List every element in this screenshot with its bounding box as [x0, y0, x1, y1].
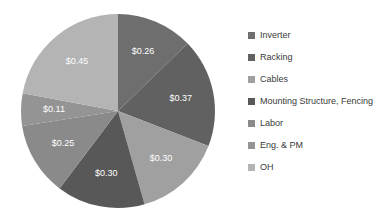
legend-item-label: Inverter: [260, 24, 291, 46]
legend-item-oh[interactable]: OH: [248, 156, 383, 178]
legend-item-label: OH: [260, 156, 274, 178]
legend-swatch-icon: [248, 32, 255, 39]
legend-item-inverter[interactable]: Inverter: [248, 24, 383, 46]
pie-slice-value-label: $0.30: [150, 153, 173, 163]
pie-plot-area: $0.26$0.37$0.30$0.30$0.25$0.11$0.45: [0, 0, 232, 220]
legend-swatch-icon: [248, 120, 255, 127]
pie-svg: $0.26$0.37$0.30$0.30$0.25$0.11$0.45: [0, 0, 232, 220]
legend-item-label: Eng. & PM: [260, 134, 303, 156]
legend-swatch-icon: [248, 98, 255, 105]
legend-item-racking[interactable]: Racking: [248, 46, 383, 68]
legend-swatch-icon: [248, 76, 255, 83]
legend-item-label: Cables: [260, 68, 288, 90]
pie-slice-value-label: $0.45: [66, 56, 89, 66]
pie-slice-value-label: $0.26: [132, 46, 155, 56]
pie-chart-figure: $0.26$0.37$0.30$0.30$0.25$0.11$0.45 Inve…: [0, 0, 383, 220]
legend-item-label: Labor: [260, 112, 283, 134]
legend-item-label: Racking: [260, 46, 293, 68]
legend-swatch-icon: [248, 54, 255, 61]
pie-slice-value-label: $0.30: [95, 168, 118, 178]
chart-legend: Inverter Racking Cables Mounting Structu…: [248, 24, 383, 178]
legend-item-label: Mounting Structure, Fencing: [260, 90, 373, 112]
legend-swatch-icon: [248, 142, 255, 149]
pie-slice-value-label: $0.11: [43, 104, 65, 114]
pie-slice-value-label: $0.37: [169, 93, 192, 103]
legend-item-cables[interactable]: Cables: [248, 68, 383, 90]
legend-item-labor[interactable]: Labor: [248, 112, 383, 134]
legend-item-eng-and-pm[interactable]: Eng. & PM: [248, 134, 383, 156]
legend-item-mounting-structure-fencing[interactable]: Mounting Structure, Fencing: [248, 90, 383, 112]
legend-swatch-icon: [248, 164, 255, 171]
pie-slice-value-label: $0.25: [52, 138, 75, 148]
